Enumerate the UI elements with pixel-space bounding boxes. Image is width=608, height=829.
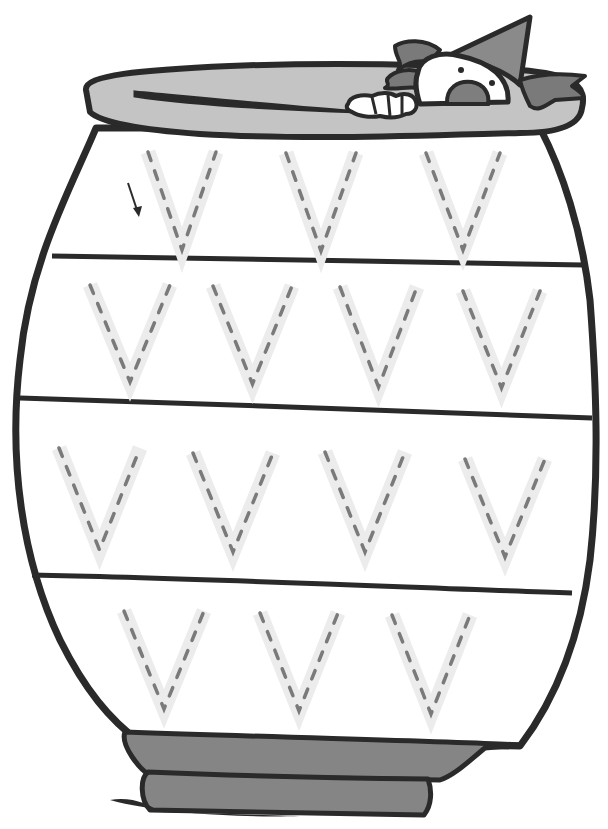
clown-eye-right <box>489 80 495 86</box>
pot-illustration <box>0 0 608 829</box>
clown-hand-icon <box>347 93 417 117</box>
pot-base-lower <box>142 772 430 815</box>
tracing-worksheet: Letter V tracing worksheet: a pot with f… <box>0 0 608 829</box>
clown-eye-left <box>458 67 464 73</box>
clown-mouth <box>447 82 488 104</box>
